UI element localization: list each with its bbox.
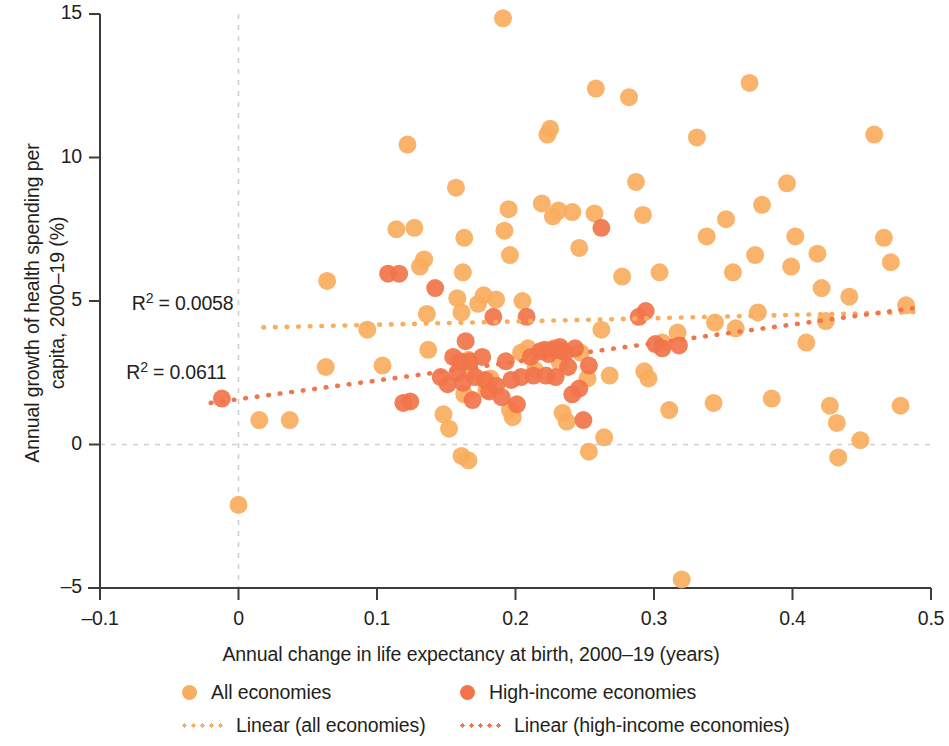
data-point — [808, 245, 826, 263]
data-point — [698, 227, 716, 245]
data-point — [587, 80, 605, 98]
data-point — [487, 291, 505, 309]
data-point — [620, 88, 638, 106]
data-point — [651, 263, 669, 281]
data-point — [705, 394, 723, 412]
data-point — [746, 246, 764, 264]
data-point — [595, 428, 613, 446]
data-point — [501, 246, 519, 264]
data-point — [500, 200, 518, 218]
data-point — [660, 401, 678, 419]
y-axis-title-line1: Annual growth of health spending per — [21, 143, 43, 462]
data-point — [398, 136, 416, 154]
data-point — [281, 411, 299, 429]
x-tick-label: –0.1 — [55, 607, 145, 630]
y-tick-label: –5 — [20, 575, 82, 598]
legend-dotted-line-high-income-icon — [460, 723, 502, 728]
data-point — [782, 258, 800, 276]
data-point — [455, 229, 473, 247]
x-tick-label: 0.5 — [886, 607, 949, 630]
legend-label-linear-all-economies: Linear (all economies) — [236, 714, 426, 737]
data-point — [673, 570, 691, 588]
data-point — [454, 263, 472, 281]
data-point — [411, 258, 429, 276]
data-point — [570, 239, 588, 257]
data-point — [840, 288, 858, 306]
data-point — [639, 369, 657, 387]
data-point — [473, 348, 491, 366]
data-point — [508, 395, 526, 413]
data-point — [440, 420, 458, 438]
data-point — [634, 206, 652, 224]
data-point — [688, 128, 706, 146]
x-axis-title: Annual change in life expectancy at birt… — [0, 642, 942, 667]
data-point — [374, 357, 392, 375]
legend-dotted-line-all-economies-icon — [182, 723, 224, 728]
data-point — [541, 120, 559, 138]
data-point — [851, 431, 869, 449]
data-point — [574, 411, 592, 429]
data-point — [601, 367, 619, 385]
data-point — [419, 341, 437, 359]
legend-item-linear-high-income[interactable]: Linear (high-income economies) — [460, 714, 760, 737]
data-point — [828, 414, 846, 432]
data-point — [813, 279, 831, 297]
data-point — [580, 357, 598, 375]
data-point — [464, 391, 482, 409]
y-axis-title-line2: capita, 2000–19 (%) — [46, 217, 68, 390]
data-point — [447, 179, 465, 197]
r2-annotation-all-economies: R2 = 0.0058 — [132, 292, 234, 315]
data-point — [390, 265, 408, 283]
x-tick-label: 0.3 — [609, 607, 699, 630]
legend-label-all-economies: All economies — [211, 681, 331, 704]
data-point — [592, 321, 610, 339]
data-point — [875, 229, 893, 247]
data-point — [613, 268, 631, 286]
data-point — [558, 413, 576, 431]
data-point — [459, 451, 477, 469]
data-point — [749, 303, 767, 321]
data-point — [778, 174, 796, 192]
legend-item-all-economies[interactable]: All economies — [182, 681, 460, 704]
data-point — [786, 227, 804, 245]
legend-label-high-income: High-income economies — [489, 681, 696, 704]
legend-item-high-income[interactable]: High-income economies — [460, 681, 760, 704]
data-point — [741, 74, 759, 92]
y-axis-title: Annual growth of health spending per cap… — [20, 68, 70, 538]
data-point — [230, 496, 248, 514]
legend-marker-all-economies-icon — [182, 685, 197, 700]
data-point — [387, 220, 405, 238]
data-point — [724, 263, 742, 281]
data-point — [882, 253, 900, 271]
data-point — [717, 210, 735, 228]
data-point — [401, 392, 419, 410]
x-tick-label: 0 — [194, 607, 284, 630]
data-point — [457, 332, 475, 350]
x-tick-label: 0.1 — [332, 607, 422, 630]
data-point — [592, 219, 610, 237]
data-point — [892, 397, 910, 415]
data-point — [865, 126, 883, 144]
x-tick-label: 0.2 — [471, 607, 561, 630]
legend-item-linear-all-economies[interactable]: Linear (all economies) — [182, 714, 460, 737]
data-point — [213, 390, 231, 408]
data-point — [763, 390, 781, 408]
data-point — [821, 397, 839, 415]
data-point — [570, 380, 588, 398]
data-point — [494, 9, 512, 27]
x-tick-label: 0.4 — [748, 607, 838, 630]
r2-annotation-high-income: R2 = 0.0611 — [126, 361, 226, 384]
data-point — [452, 303, 470, 321]
data-point — [653, 339, 671, 357]
legend-label-linear-high-income: Linear (high-income economies) — [514, 714, 790, 737]
data-point — [829, 448, 847, 466]
legend-row-markers: All economies High-income economies — [0, 676, 942, 709]
data-point — [405, 219, 423, 237]
data-point — [797, 334, 815, 352]
data-point — [317, 358, 335, 376]
data-point — [418, 305, 436, 323]
series-points-all-economies — [230, 9, 916, 588]
legend-row-trendlines: Linear (all economies) Linear (high-inco… — [0, 709, 942, 742]
data-point — [484, 308, 502, 326]
data-point — [559, 358, 577, 376]
